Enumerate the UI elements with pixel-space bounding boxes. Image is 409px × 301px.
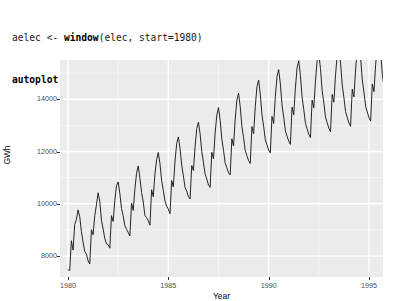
x-axis-tick-label: 1985: [148, 282, 188, 290]
x-axis-tick-label: 1990: [249, 282, 289, 290]
plot-figure: 8000100001200014000 1980198519901995 Yea…: [0, 42, 409, 286]
x-axis-tick-mark: [369, 277, 370, 280]
y-axis-tick-mark: [57, 99, 60, 100]
y-axis-tick-label: 12000: [19, 148, 57, 156]
y-axis-tick-mark: [57, 152, 60, 153]
x-axis-tick-label: 1980: [48, 282, 88, 290]
x-axis-tick-mark: [168, 277, 169, 280]
y-axis-tick-label: 8000: [19, 252, 57, 260]
x-axis-tick-label: 1995: [349, 282, 389, 290]
y-axis-tick-label: 14000: [19, 95, 57, 103]
series-canvas: [60, 60, 383, 277]
plot-panel: [60, 60, 383, 277]
x-axis-tick-mark: [68, 277, 69, 280]
y-axis-tick-label: 10000: [19, 200, 57, 208]
y-axis-tick-mark: [57, 204, 60, 205]
y-axis-tick-mark: [57, 256, 60, 257]
x-axis-tick-mark: [269, 277, 270, 280]
x-axis-title: Year: [60, 291, 383, 301]
y-axis-title: GWh: [2, 135, 12, 175]
series-line-aelec: [68, 60, 383, 270]
